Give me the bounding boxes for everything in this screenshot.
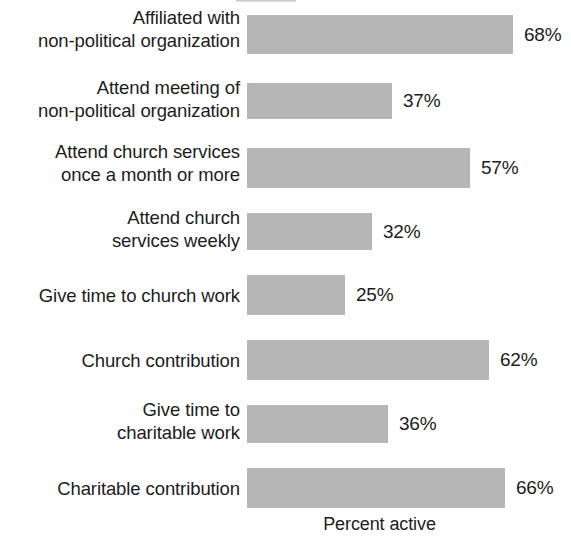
bar-category-label: Attend church services weekly	[0, 206, 240, 252]
bar	[247, 213, 372, 250]
bar	[247, 340, 489, 380]
bar-value-label: 37%	[403, 91, 440, 110]
bar-value-label: 32%	[383, 222, 420, 241]
bar-category-label: Attend meeting of non-political organiza…	[0, 76, 240, 122]
x-axis-caption-text: Percent active	[323, 514, 436, 535]
bar-category-label: Church contribution	[0, 349, 240, 372]
bar-value-label: 66%	[516, 478, 553, 497]
bar-category-label: Give time to charitable work	[0, 398, 240, 444]
bar-value-label: 57%	[481, 158, 518, 177]
x-axis-caption: Percent active	[0, 514, 571, 535]
bar-chart: Affiliated with non-political organizati…	[0, 0, 571, 537]
bar	[247, 468, 505, 508]
bar-value-label: 62%	[500, 350, 537, 369]
bar-category-label: Give time to church work	[0, 284, 240, 307]
bar-value-label: 68%	[524, 25, 561, 44]
bar	[247, 83, 392, 119]
chart-plot-area: Affiliated with non-political organizati…	[0, 0, 571, 537]
bar-category-label: Charitable contribution	[0, 477, 240, 500]
bar-value-label: 25%	[356, 285, 393, 304]
bar	[247, 275, 345, 315]
bar	[247, 405, 388, 443]
bar	[247, 15, 513, 54]
bar-category-label: Affiliated with non-political organizati…	[0, 6, 240, 52]
bar-value-label: 36%	[399, 414, 436, 433]
bar-category-label: Attend church services once a month or m…	[0, 140, 240, 186]
bar	[247, 148, 470, 188]
